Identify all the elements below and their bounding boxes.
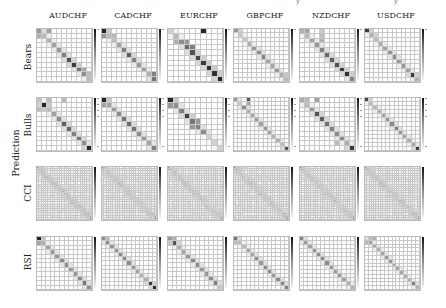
colorbar (422, 237, 424, 288)
matrix-cell (284, 78, 289, 82)
confusion-matrix (299, 166, 356, 221)
colorbar-ticks (425, 98, 427, 149)
colorbar (422, 167, 424, 218)
heatmap-cci-nzdchf (297, 163, 363, 221)
heatmap-bears-nzdchf (297, 25, 363, 83)
heatmap-rsi-cadchf (99, 233, 165, 291)
matrix-cell (155, 218, 157, 220)
colorbar (291, 29, 293, 80)
confusion-matrix (233, 97, 290, 152)
heatmap-bulls-nzdchf (297, 94, 363, 152)
top-text-fragment: y (394, 0, 398, 5)
colorbar (225, 167, 227, 218)
heatmap-cci-eurchf (165, 163, 231, 221)
confusion-matrix (101, 28, 158, 83)
colorbar (94, 237, 96, 288)
heatmap-bears-gbpchf (231, 25, 297, 83)
matrix-cell (218, 286, 223, 290)
matrix-cell (415, 78, 420, 82)
colorbar-ticks (425, 237, 427, 288)
confusion-matrix (36, 28, 93, 83)
colorbar (291, 237, 293, 288)
column-title-usdchf: USDCHF (364, 11, 428, 20)
row-label-bears: Bears (23, 32, 33, 82)
colorbar (159, 29, 161, 80)
column-title-cadchf: CADCHF (101, 11, 165, 20)
colorbar (357, 98, 359, 149)
confusion-matrix (233, 236, 290, 291)
confusion-matrix (36, 236, 93, 291)
colorbar-ticks (425, 29, 427, 80)
colorbar (422, 98, 424, 149)
colorbar-ticks (228, 29, 230, 80)
matrix-cell (152, 77, 157, 82)
colorbar (94, 29, 96, 80)
confusion-matrix (299, 97, 356, 152)
colorbar (225, 237, 227, 288)
matrix-cell (353, 218, 355, 220)
confusion-matrix (233, 28, 290, 83)
matrix-cell (287, 218, 289, 220)
colorbar (94, 98, 96, 149)
heatmap-cci-audchf (34, 163, 100, 221)
row-label-rsi: RSI (23, 237, 33, 287)
matrix-cell (221, 218, 223, 220)
confusion-matrix (364, 166, 421, 221)
colorbar (225, 98, 227, 149)
colorbar (357, 237, 359, 288)
colorbar (291, 167, 293, 218)
confusion-matrix (299, 236, 356, 291)
colorbar-ticks (228, 237, 230, 288)
heatmap-bears-usdchf (362, 25, 428, 83)
confusion-matrix (167, 28, 224, 83)
confusion-matrix (36, 97, 93, 152)
matrix-cell (87, 286, 92, 290)
colorbar (159, 237, 161, 288)
colorbar-ticks (228, 167, 230, 218)
matrix-cell (416, 147, 420, 151)
colorbar (159, 167, 161, 218)
confusion-matrix (101, 236, 158, 291)
heatmap-cci-cadchf (99, 163, 165, 221)
matrix-cell (416, 286, 420, 290)
confusion-matrix (167, 236, 224, 291)
column-title-audchf: AUDCHF (36, 11, 100, 20)
confusion-matrix (233, 166, 290, 221)
matrix-cell (218, 146, 224, 151)
colorbar-ticks (294, 29, 296, 80)
heatmap-cci-usdchf (362, 163, 428, 221)
prediction-group-label: Prediction (11, 123, 21, 183)
colorbar (159, 98, 161, 149)
colorbar-ticks (162, 29, 164, 80)
confusion-matrix (36, 166, 93, 221)
heatmap-bulls-usdchf (362, 94, 428, 152)
colorbar (225, 29, 227, 80)
confusion-matrix (101, 166, 158, 221)
matrix-cell (285, 147, 289, 151)
matrix-cell (351, 286, 355, 290)
matrix-cell (218, 77, 224, 82)
confusion-matrix (364, 236, 421, 291)
heatmap-rsi-usdchf (362, 233, 428, 291)
heatmap-bulls-audchf (34, 94, 100, 152)
heatmap-rsi-gbpchf (231, 233, 297, 291)
matrix-cell (418, 218, 420, 220)
heatmap-rsi-eurchf (165, 233, 231, 291)
confusion-matrix (364, 28, 421, 83)
colorbar (291, 98, 293, 149)
column-title-nzdchf: NZDCHF (299, 11, 363, 20)
heatmap-rsi-nzdchf (297, 233, 363, 291)
heatmap-bears-audchf (34, 25, 100, 83)
heatmap-bulls-eurchf (165, 94, 231, 152)
colorbar-ticks (294, 167, 296, 218)
heatmap-cci-gbpchf (231, 163, 297, 221)
matrix-cell (153, 286, 157, 290)
colorbar (94, 167, 96, 218)
matrix-cell (152, 146, 157, 151)
confusion-matrix (101, 97, 158, 152)
colorbar-ticks (425, 167, 427, 218)
confusion-matrix (299, 28, 356, 83)
colorbar-ticks (294, 237, 296, 288)
matrix-cell (90, 218, 92, 220)
row-label-bulls: Bulls (23, 100, 33, 150)
